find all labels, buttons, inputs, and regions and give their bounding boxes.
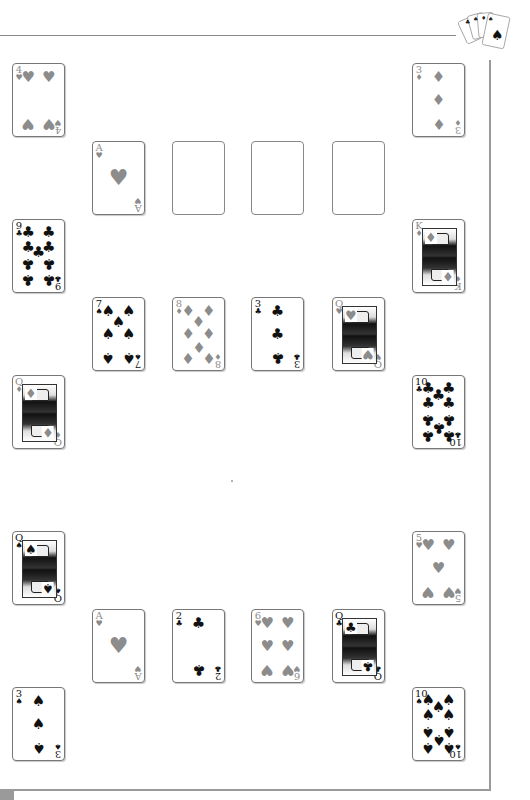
suit-pip-icon: ♥ bbox=[431, 561, 447, 576]
suit-pip-icon: ♦ bbox=[431, 116, 447, 131]
suit-pip-icon: ♠ bbox=[441, 708, 457, 723]
suit-pip-icon: ♣ bbox=[41, 272, 57, 287]
suit-pip-icon: ♠ bbox=[31, 693, 47, 708]
suit-icon: ♠ bbox=[42, 582, 54, 595]
suit-pip-icon: ♦ bbox=[201, 350, 217, 365]
suit-icon: ♦ bbox=[425, 231, 437, 244]
card-index-br: A♥ bbox=[134, 664, 142, 681]
suit-pip-icon: ♠ bbox=[420, 708, 436, 723]
suit-pip-icon: ♥ bbox=[108, 167, 130, 189]
row-card[interactable]: Q♣Q♣♣♣ bbox=[332, 609, 385, 683]
suit-pip-icon: ♣ bbox=[270, 327, 286, 342]
suit-pip-icon: ♣ bbox=[441, 396, 457, 411]
right-column-card[interactable]: K♦K♦♦♦ bbox=[412, 219, 465, 293]
top-divider bbox=[0, 35, 456, 36]
left-column-card[interactable]: 9♣9♣♣♣♣♣♣♣♣♣♣ bbox=[12, 219, 65, 293]
row-card[interactable]: 6♥6♥♥♥♥♥♥♥ bbox=[251, 609, 304, 683]
suit-pip-icon: ♣ bbox=[20, 272, 36, 287]
row-card[interactable]: 3♣3♣♣♣♣ bbox=[251, 297, 304, 371]
row-empty-slot[interactable] bbox=[251, 141, 304, 215]
suit-pip-icon: ♠ bbox=[420, 740, 436, 755]
suit-icon: ♥ bbox=[362, 348, 374, 361]
suit-icon: ♥ bbox=[134, 196, 142, 204]
suit-icon: ♣ bbox=[175, 620, 183, 628]
card-index-tl: 2♣ bbox=[175, 611, 183, 628]
center-dot bbox=[231, 480, 233, 482]
card-index-tl: A♥ bbox=[95, 143, 103, 160]
suit-pip-icon: ♥ bbox=[259, 662, 275, 677]
four-aces-logo-icon: ♣♠♦♠ ♠ bbox=[458, 8, 520, 60]
suit-pip-icon: ♥ bbox=[108, 635, 130, 657]
card-index-br: 3♣ bbox=[293, 352, 301, 369]
suit-pip-icon: ♣ bbox=[20, 224, 36, 239]
face-card-portrait: ♦♦ bbox=[422, 228, 457, 286]
left-column-card[interactable]: Q♦Q♦♦♦ bbox=[12, 375, 65, 449]
suit-pip-icon: ♥ bbox=[41, 116, 57, 131]
suit-pip-icon: ♥ bbox=[420, 584, 436, 599]
suit-pip-icon: ♦ bbox=[180, 350, 196, 365]
suit-pip-icon: ♠ bbox=[100, 350, 116, 365]
left-column-card[interactable]: Q♠Q♠♠♠ bbox=[12, 531, 65, 605]
suit-icon: ♠ bbox=[25, 543, 37, 556]
suit-icon: ♣ bbox=[254, 308, 262, 316]
row-card[interactable]: A♥A♥♥ bbox=[92, 609, 145, 683]
row-empty-slot[interactable] bbox=[172, 141, 225, 215]
card-index-br: 2♣ bbox=[214, 664, 222, 681]
right-column-card[interactable]: 10♣10♣♣♣♣♣♣♣♣♣♣♣ bbox=[412, 375, 465, 449]
suit-pip-icon: ♣ bbox=[191, 615, 207, 630]
face-card-portrait: ♠♠ bbox=[22, 540, 57, 598]
card-index-br: A♥ bbox=[134, 196, 142, 213]
card-index-tl: 3♦ bbox=[415, 65, 423, 82]
svg-text:♠: ♠ bbox=[491, 27, 504, 43]
card-index-tl: 3♣ bbox=[254, 299, 262, 316]
suit-icon: ♠ bbox=[15, 698, 23, 706]
svg-text:♠: ♠ bbox=[473, 15, 478, 22]
row-card[interactable]: A♥A♥♥ bbox=[92, 141, 145, 215]
svg-text:♣: ♣ bbox=[465, 18, 470, 25]
suit-pip-icon: ♠ bbox=[441, 740, 457, 755]
right-column-card[interactable]: 3♦3♦♦♦♦ bbox=[412, 63, 465, 137]
face-card-portrait: ♦♦ bbox=[22, 384, 57, 442]
suit-icon: ♥ bbox=[95, 152, 103, 160]
suit-pip-icon: ♥ bbox=[441, 537, 457, 552]
bottom-border bbox=[0, 789, 491, 791]
suit-pip-icon: ♣ bbox=[270, 303, 286, 318]
card-index-br: 3♦ bbox=[454, 118, 462, 135]
suit-icon: ♣ bbox=[362, 660, 374, 673]
suit-pip-icon: ♥ bbox=[41, 69, 57, 84]
left-column-card[interactable]: 3♠3♠♠♠♠ bbox=[12, 687, 65, 761]
suit-icon: ♦ bbox=[454, 118, 462, 126]
suit-pip-icon: ♣ bbox=[441, 428, 457, 443]
suit-pip-icon: ♣ bbox=[270, 350, 286, 365]
suit-pip-icon: ♥ bbox=[20, 116, 36, 131]
row-card[interactable]: 7♠7♠♠♠♠♠♠♠♠ bbox=[92, 297, 145, 371]
suit-pip-icon: ♣ bbox=[41, 224, 57, 239]
suit-pip-icon: ♣ bbox=[41, 256, 57, 271]
suit-pip-icon: ♥ bbox=[259, 615, 275, 630]
suit-icon: ♦ bbox=[415, 74, 423, 82]
suit-pip-icon: ♥ bbox=[20, 69, 36, 84]
suit-pip-icon: ♦ bbox=[431, 69, 447, 84]
right-column-card[interactable]: 10♠10♠♠♠♠♠♠♠♠♠♠♠ bbox=[412, 687, 465, 761]
row-card[interactable]: 8♦8♦♦♦♦♦♦♦♦♦ bbox=[172, 297, 225, 371]
suit-pip-icon: ♥ bbox=[280, 639, 296, 654]
suit-pip-icon: ♥ bbox=[259, 639, 275, 654]
right-column-card[interactable]: 5♥5♥♥♥♥♥♥ bbox=[412, 531, 465, 605]
row-card[interactable]: 2♣2♣♣♣ bbox=[172, 609, 225, 683]
suit-pip-icon: ♥ bbox=[280, 662, 296, 677]
row-empty-slot[interactable] bbox=[332, 141, 385, 215]
svg-text:♦: ♦ bbox=[481, 14, 486, 21]
suit-icon: ♠ bbox=[54, 742, 62, 750]
right-border bbox=[489, 60, 491, 791]
suit-pip-icon: ♣ bbox=[420, 396, 436, 411]
left-column-card[interactable]: 4♥4♥♥♥♥♥ bbox=[12, 63, 65, 137]
row-card[interactable]: Q♥Q♥♥♥ bbox=[332, 297, 385, 371]
suit-pip-icon: ♠ bbox=[100, 327, 116, 342]
suit-pip-icon: ♣ bbox=[191, 662, 207, 677]
suit-icon: ♦ bbox=[25, 387, 37, 400]
suit-icon: ♣ bbox=[293, 352, 301, 360]
suit-pip-icon: ♥ bbox=[441, 584, 457, 599]
card-index-tl: 3♠ bbox=[15, 689, 23, 706]
suit-icon: ♥ bbox=[134, 664, 142, 672]
suit-icon: ♥ bbox=[345, 309, 357, 322]
